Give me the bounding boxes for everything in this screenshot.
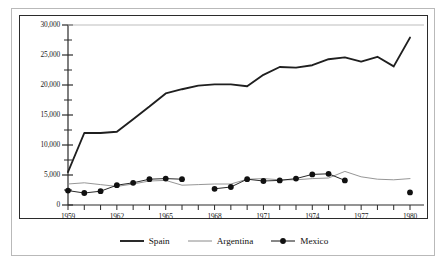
legend-label-argentina: Argentina <box>217 236 254 246</box>
series-line-spain <box>68 38 410 172</box>
legend-item-argentina[interactable]: Argentina <box>187 236 254 246</box>
series-marker-mexico <box>130 180 136 186</box>
thin-line-swatch-icon <box>187 236 213 246</box>
series-marker-mexico <box>244 176 250 182</box>
x-axis-tick-label: 1971 <box>243 212 283 221</box>
legend-label-spain: Spain <box>149 236 170 246</box>
x-axis-tick-label: 1965 <box>146 212 186 221</box>
series-marker-mexico <box>342 178 348 184</box>
x-axis-tick-label: 1962 <box>97 212 137 221</box>
series-marker-mexico <box>81 190 87 196</box>
series-marker-mexico <box>212 186 218 192</box>
y-axis-tick-label: 20,000 <box>8 80 60 89</box>
chart-legend: Spain Argentina Mexico <box>19 232 428 250</box>
y-axis-tick-label: 5,000 <box>8 170 60 179</box>
series-marker-mexico <box>326 171 332 177</box>
x-axis-tick-label: 1968 <box>195 212 235 221</box>
chart-figure: 30,00025,00020,00015,00010,0005,0000 195… <box>0 0 448 267</box>
series-marker-mexico <box>277 178 283 184</box>
chart-canvas <box>0 0 448 267</box>
series-marker-mexico <box>293 176 299 182</box>
series-marker-mexico <box>147 176 153 182</box>
y-axis-tick-label: 10,000 <box>8 140 60 149</box>
series-marker-mexico <box>65 188 71 194</box>
series-marker-mexico <box>114 182 120 188</box>
series-marker-mexico <box>261 178 267 184</box>
legend-item-spain[interactable]: Spain <box>119 236 170 246</box>
series-marker-mexico <box>98 188 104 194</box>
y-axis-tick-label: 25,000 <box>8 50 60 59</box>
marker-line-swatch-icon <box>270 236 296 246</box>
series-marker-mexico <box>228 184 234 190</box>
y-axis-tick-label: 0 <box>8 200 60 209</box>
series-marker-mexico <box>179 176 185 182</box>
y-axis-tick-label: 30,000 <box>8 20 60 29</box>
x-axis-tick-label: 1980 <box>390 212 430 221</box>
x-axis-tick-label: 1974 <box>292 212 332 221</box>
x-axis-tick-label: 1959 <box>48 212 88 221</box>
x-axis-tick-label: 1977 <box>341 212 381 221</box>
y-axis-tick-label: 15,000 <box>8 110 60 119</box>
thick-line-swatch-icon <box>119 236 145 246</box>
series-marker-mexico <box>163 176 169 182</box>
series-marker-mexico <box>407 190 413 196</box>
series-marker-mexico <box>309 172 315 178</box>
legend-item-mexico[interactable]: Mexico <box>270 236 328 246</box>
legend-label-mexico: Mexico <box>300 236 328 246</box>
